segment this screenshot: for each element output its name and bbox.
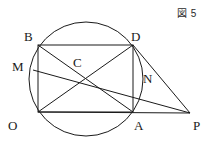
- geometry-figure: B D M C N O A P 図 5: [0, 0, 215, 150]
- line-D-to-P: [133, 45, 190, 113]
- vertex-label-N: N: [143, 72, 152, 85]
- geometry-canvas: [0, 0, 215, 150]
- vertex-label-D: D: [131, 30, 140, 43]
- vertex-label-B: B: [24, 30, 33, 43]
- vertex-label-O: O: [8, 119, 17, 132]
- line-M-to-P: [33, 70, 190, 113]
- vertex-label-A: A: [134, 119, 143, 132]
- vertex-label-M: M: [12, 60, 24, 73]
- line-O-to-P: [38, 112, 190, 113]
- vertex-label-C: C: [73, 56, 82, 69]
- vertex-label-P: P: [193, 119, 200, 132]
- figure-caption: 図 5: [177, 9, 197, 19]
